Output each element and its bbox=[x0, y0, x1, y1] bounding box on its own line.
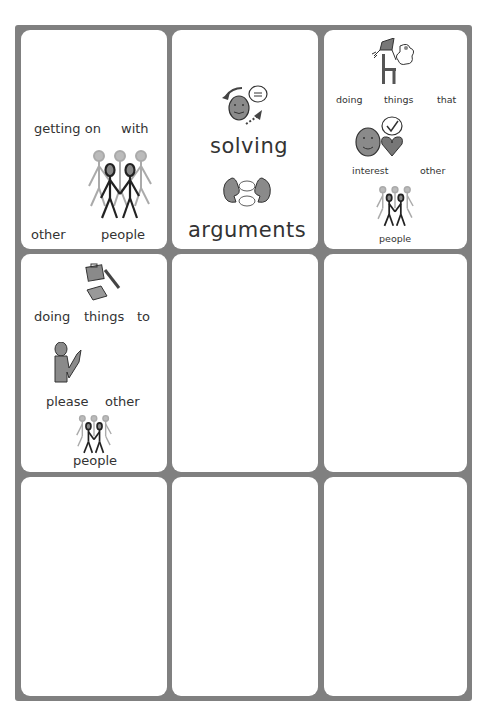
card-empty-6 bbox=[324, 254, 467, 472]
card-empty-5 bbox=[172, 254, 318, 472]
word-to: to bbox=[137, 309, 150, 324]
problem-solving-face-icon bbox=[222, 82, 270, 128]
group-of-people-icon bbox=[74, 414, 114, 454]
card-getting-on-with-other-people: getting on with other pe bbox=[21, 30, 167, 249]
word-things: things bbox=[384, 94, 413, 105]
person-praying-icon bbox=[53, 342, 83, 386]
card-empty-8 bbox=[172, 477, 318, 696]
kite-chair-hobbies-icon bbox=[372, 38, 416, 84]
word-people: people bbox=[379, 233, 411, 244]
card-doing-things-that-interest-other-people: doing things that interest other bbox=[324, 30, 467, 249]
card-empty-9 bbox=[324, 477, 467, 696]
word-doing: doing bbox=[34, 309, 70, 324]
word-interest: interest bbox=[352, 165, 388, 176]
word-with: with bbox=[121, 121, 149, 136]
card-empty-7 bbox=[21, 477, 167, 696]
briefcase-laptop-pen-icon bbox=[85, 262, 125, 302]
group-of-people-icon bbox=[87, 148, 153, 220]
two-heads-arguing-icon bbox=[222, 176, 272, 210]
face-thought-heart-icon bbox=[354, 116, 410, 160]
word-arguments: arguments bbox=[188, 218, 306, 242]
card-doing-things-to-please-other-people: doing things to please other bbox=[21, 254, 167, 472]
card-grid: getting on with other pe bbox=[15, 25, 472, 701]
word-doing: doing bbox=[336, 94, 363, 105]
word-other: other bbox=[420, 165, 445, 176]
word-please: please bbox=[46, 394, 89, 409]
card-solving-arguments: solving arguments bbox=[172, 30, 318, 249]
word-other: other bbox=[31, 227, 66, 242]
group-of-people-icon bbox=[374, 185, 416, 227]
word-other: other bbox=[105, 394, 140, 409]
word-getting-on: getting on bbox=[34, 121, 101, 136]
word-people: people bbox=[101, 227, 145, 242]
word-people: people bbox=[73, 453, 117, 468]
word-things: things bbox=[84, 309, 124, 324]
word-solving: solving bbox=[210, 134, 288, 158]
word-that: that bbox=[437, 94, 456, 105]
